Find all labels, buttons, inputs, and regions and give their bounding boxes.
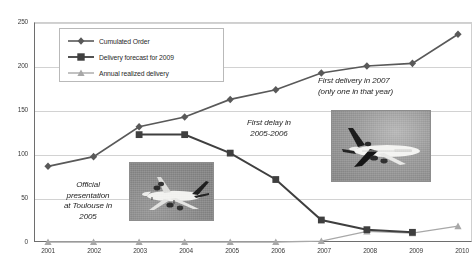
legend-marker-triangle-icon <box>66 67 96 79</box>
x-tick-2003: 2003 <box>123 247 157 254</box>
y-tick-150: 150 <box>4 106 28 113</box>
x-tick-2001: 2001 <box>31 247 65 254</box>
x-tick-2010: 2010 <box>445 247 476 254</box>
legend-marker-square-icon <box>66 51 96 63</box>
y-tick-0: 0 <box>4 238 28 245</box>
legend-label-cumulated-order: Cumulated Order <box>99 38 150 45</box>
legend-item-cumulated-order: Cumulated Order <box>66 33 217 49</box>
y-tick-50: 50 <box>4 194 28 201</box>
x-tick-2005: 2005 <box>215 247 249 254</box>
annotation-first-delay: First delay in 2005-2006 <box>226 118 312 139</box>
legend-item-delivery-forecast: Delivery forecast for 2009 <box>66 49 217 65</box>
x-tick-2008: 2008 <box>353 247 387 254</box>
x-tick-2002: 2002 <box>77 247 111 254</box>
legend-label-delivery-forecast: Delivery forecast for 2009 <box>99 54 174 61</box>
y-tick-250: 250 <box>4 18 28 25</box>
chart-legend: Cumulated Order Delivery forecast for 20… <box>59 28 224 82</box>
x-tick-2007: 2007 <box>307 247 341 254</box>
annotation-first-delivery: First delivery in 2007 (only one in that… <box>318 76 436 97</box>
photo-grain <box>332 111 430 181</box>
x-tick-2009: 2009 <box>399 247 433 254</box>
y-tick-100: 100 <box>4 150 28 157</box>
photo-grain <box>130 163 213 220</box>
annotation-toulouse-presentation: Official presentation at Toulouse in 200… <box>52 180 124 222</box>
legend-item-annual-realized: Annual realized delivery <box>66 65 217 81</box>
x-tick-2004: 2004 <box>169 247 203 254</box>
x-tick-2006: 2006 <box>261 247 295 254</box>
gridline-250 <box>35 23 471 24</box>
y-tick-200: 200 <box>4 62 28 69</box>
photo-a380-in-flight <box>331 110 431 182</box>
chart-container: 250 200 150 100 50 0 2001 2002 2003 2004… <box>0 0 476 267</box>
legend-marker-diamond-icon <box>66 35 96 47</box>
legend-label-annual-realized: Annual realized delivery <box>99 70 169 77</box>
photo-a380-presentation <box>129 162 214 221</box>
